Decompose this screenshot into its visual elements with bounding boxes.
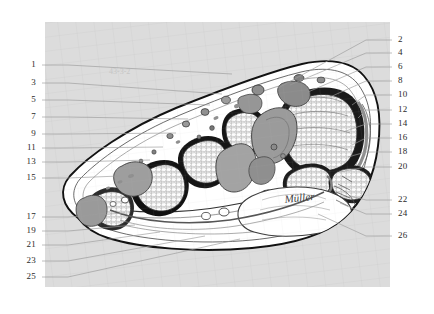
anatomical-figure-plate: 43-3-2 xyxy=(0,0,434,314)
callout-number-11: 11 xyxy=(18,143,36,152)
callout-number-16: 16 xyxy=(398,133,416,142)
callout-number-22: 22 xyxy=(398,195,416,204)
callout-number-23: 23 xyxy=(18,256,36,265)
callout-number-13: 13 xyxy=(18,157,36,166)
callout-number-25: 25 xyxy=(18,272,36,281)
callout-number-3: 3 xyxy=(18,78,36,87)
callout-number-17: 17 xyxy=(18,212,36,221)
callout-number-10: 10 xyxy=(398,90,416,99)
callout-number-2: 2 xyxy=(398,35,416,44)
callout-number-18: 18 xyxy=(398,147,416,156)
callout-number-9: 9 xyxy=(18,129,36,138)
callout-number-4: 4 xyxy=(398,48,416,57)
callout-number-19: 19 xyxy=(18,226,36,235)
callout-number-20: 20 xyxy=(398,162,416,171)
callout-number-7: 7 xyxy=(18,112,36,121)
callout-number-6: 6 xyxy=(398,62,416,71)
callout-number-1: 1 xyxy=(18,60,36,69)
cross-section-illustration: 43-3-2 xyxy=(0,0,434,314)
callout-number-5: 5 xyxy=(18,95,36,104)
callout-number-12: 12 xyxy=(398,105,416,114)
callout-number-24: 24 xyxy=(398,209,416,218)
callout-number-8: 8 xyxy=(398,76,416,85)
callout-number-26: 26 xyxy=(398,231,416,240)
callout-number-21: 21 xyxy=(18,240,36,249)
callout-number-14: 14 xyxy=(398,119,416,128)
callout-number-15: 15 xyxy=(18,173,36,182)
